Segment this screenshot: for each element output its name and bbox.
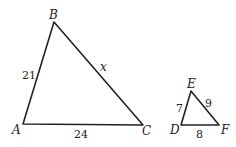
side-de-length: 7	[176, 102, 183, 115]
vertex-b-label: B	[48, 8, 58, 22]
triangle-abc: B A C 21 x 24	[11, 8, 151, 141]
vertex-d-label: D	[169, 123, 180, 137]
vertex-c-label: C	[142, 124, 151, 138]
similar-triangles-diagram: B A C 21 x 24 E D F 7 9 8	[0, 0, 236, 147]
side-bc-length: x	[100, 60, 107, 74]
vertex-a-label: A	[11, 123, 21, 137]
triangle-abc-outline	[23, 22, 143, 125]
vertex-e-label: E	[186, 77, 196, 91]
side-ef-length: 9	[205, 97, 212, 110]
triangle-def: E D F 7 9 8	[169, 77, 230, 141]
side-ab-length: 21	[22, 69, 36, 82]
side-ac-length: 24	[74, 128, 88, 141]
triangle-def-outline	[181, 91, 219, 125]
side-df-length: 8	[196, 128, 203, 141]
vertex-f-label: F	[220, 123, 230, 137]
